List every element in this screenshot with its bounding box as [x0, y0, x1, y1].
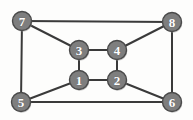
- graph-canvas: 12345678: [0, 0, 193, 120]
- node-label-6: 6: [169, 95, 176, 110]
- graph-node-8[interactable]: 8: [163, 13, 183, 33]
- edge-layer: [21, 21, 172, 102]
- node-layer: 12345678: [12, 12, 183, 113]
- graph-diagram: 12345678: [0, 0, 193, 120]
- graph-edge-7-8: [22, 21, 172, 22]
- graph-node-3[interactable]: 3: [70, 41, 90, 61]
- node-label-8: 8: [169, 15, 176, 30]
- graph-node-1[interactable]: 1: [70, 71, 90, 91]
- node-label-4: 4: [114, 43, 121, 58]
- graph-node-6[interactable]: 6: [163, 93, 183, 113]
- node-label-3: 3: [76, 43, 83, 58]
- node-label-1: 1: [76, 73, 83, 88]
- node-label-5: 5: [18, 95, 25, 110]
- node-label-7: 7: [19, 14, 26, 29]
- graph-node-4[interactable]: 4: [108, 41, 128, 61]
- graph-node-2[interactable]: 2: [108, 71, 128, 91]
- node-label-2: 2: [114, 73, 121, 88]
- graph-node-5[interactable]: 5: [12, 93, 32, 113]
- graph-edge-5-7: [21, 21, 22, 102]
- graph-node-7[interactable]: 7: [13, 12, 33, 32]
